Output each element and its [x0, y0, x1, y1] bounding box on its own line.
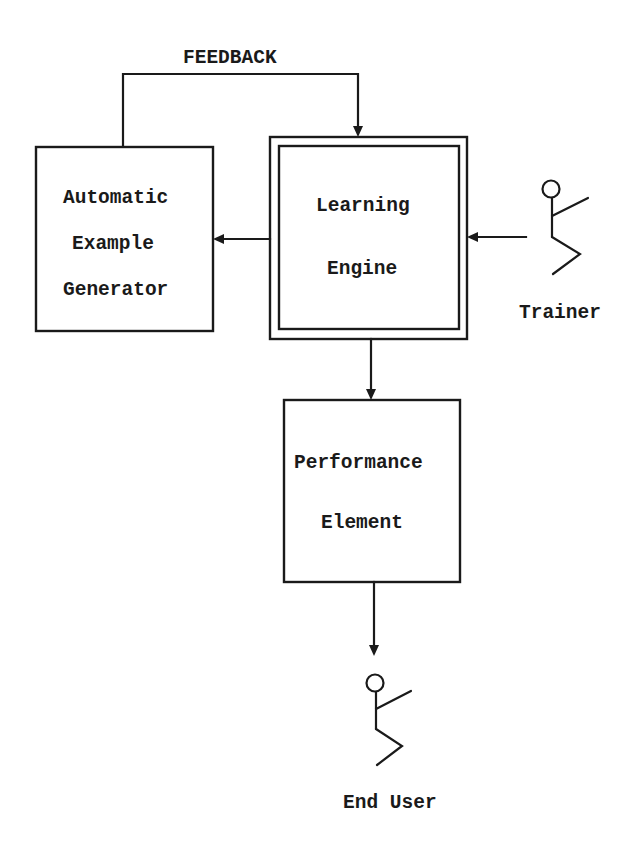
learning-engine-label-line1: Learning	[316, 195, 410, 217]
learning-engine-node: Learning Engine	[270, 137, 467, 339]
stick-figure-icon	[367, 675, 412, 766]
engine-to-performance-edge	[366, 339, 376, 400]
arrow-down-icon	[369, 645, 379, 656]
performance-element-box	[284, 400, 460, 582]
performance-to-user-edge	[369, 582, 379, 656]
example-generator-label-line2: Example	[72, 233, 154, 255]
engine-to-generator-edge	[213, 234, 270, 244]
feedback-label: FEEDBACK	[183, 47, 277, 69]
arrow-left-icon	[467, 232, 478, 242]
stick-figure-head	[543, 181, 560, 198]
example-generator-label-line3: Generator	[63, 279, 168, 301]
feedback-edge: FEEDBACK	[123, 47, 363, 147]
stick-figure-icon	[543, 181, 589, 275]
stick-figure-legs	[376, 729, 402, 765]
learning-engine-outer-box	[270, 137, 467, 339]
trainer-to-engine-edge	[467, 232, 526, 242]
stick-figure-legs	[552, 237, 580, 274]
example-generator-node: Automatic Example Generator	[36, 147, 213, 331]
arrow-down-icon	[366, 389, 376, 400]
performance-element-label-line2: Element	[321, 512, 403, 534]
trainer-actor: Trainer	[519, 181, 601, 325]
stick-figure-arm	[376, 691, 411, 709]
learning-engine-label-line2: Engine	[327, 258, 397, 280]
performance-element-node: Performance Element	[284, 400, 460, 582]
performance-element-label-line1: Performance	[294, 452, 423, 474]
arrow-down-icon	[353, 126, 363, 137]
learning-engine-inner-box	[279, 146, 459, 329]
end-user-label: End User	[343, 792, 437, 814]
arrow-left-icon	[213, 234, 224, 244]
learning-system-diagram: FEEDBACK Automatic Example Generator Lea…	[0, 0, 632, 843]
stick-figure-head	[367, 675, 384, 692]
example-generator-label-line1: Automatic	[63, 187, 168, 209]
trainer-label: Trainer	[519, 302, 601, 324]
stick-figure-arm	[552, 198, 588, 216]
end-user-actor: End User	[343, 675, 437, 815]
